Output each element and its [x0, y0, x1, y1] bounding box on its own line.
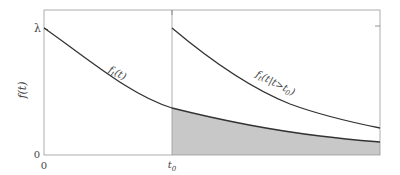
x-tick-zero: 0 — [41, 160, 47, 171]
x-tick-t0: t0 — [168, 159, 177, 173]
y-axis-label: f(t) — [16, 81, 29, 99]
y-tick-lambda: λ — [34, 22, 41, 35]
x-tick-t0-sub: 0 — [172, 165, 177, 173]
y-tick-zero: 0 — [34, 149, 40, 160]
curve-f-t-conditional-label: ft(t|t>t0) — [252, 68, 297, 99]
exponential-density-chart: f(t) λ 0 0 t0 ft(t) ft(t|t>t0) — [0, 0, 400, 175]
